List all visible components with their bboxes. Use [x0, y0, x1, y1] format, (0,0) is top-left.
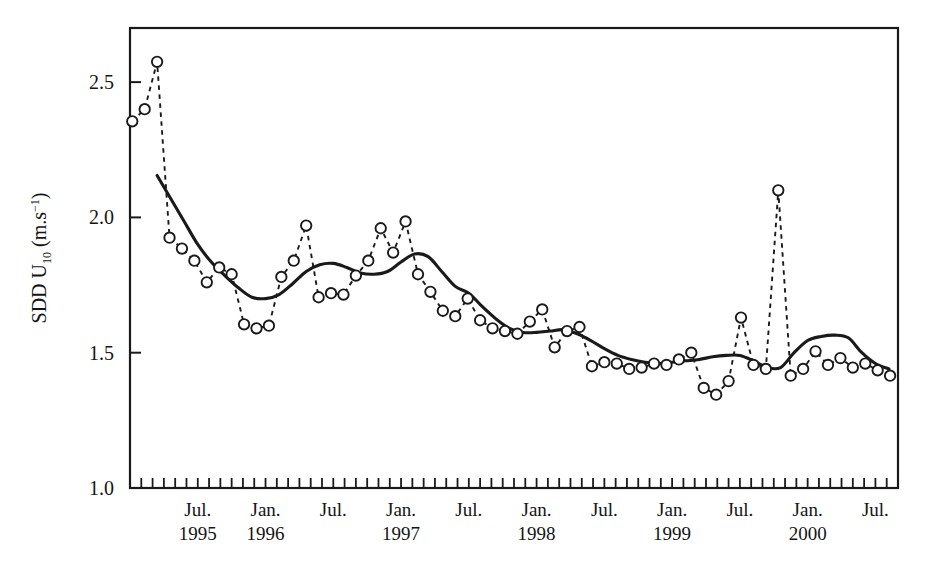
data-point-marker: [239, 319, 249, 329]
data-point-marker: [413, 269, 423, 279]
data-point-marker: [276, 272, 286, 282]
data-point-marker: [549, 342, 559, 352]
data-point-marker: [736, 312, 746, 322]
data-point-marker: [711, 389, 721, 399]
data-point-marker: [289, 256, 299, 266]
x-tick-label-month: Jul.: [862, 499, 889, 520]
x-tick-label-month: Jan.: [522, 499, 552, 520]
y-label-main-b: (m.s: [28, 212, 51, 252]
data-point-marker: [376, 223, 386, 233]
y-tick-label: 1.5: [89, 342, 114, 364]
x-tick-label-month: Jul.: [726, 499, 753, 520]
data-point-marker: [748, 360, 758, 370]
data-point-marker: [835, 353, 845, 363]
data-point-marker: [562, 326, 572, 336]
data-point-marker: [574, 322, 584, 332]
data-point-marker: [661, 360, 671, 370]
data-point-marker: [338, 289, 348, 299]
y-label-main-a: SDD U: [28, 263, 50, 323]
x-tick-label-month: Jul.: [320, 499, 347, 520]
data-point-marker: [587, 361, 597, 371]
x-tick-label-month: Jan.: [250, 499, 280, 520]
data-point-marker: [226, 269, 236, 279]
data-point-marker: [798, 364, 808, 374]
x-tick-label-month: Jan.: [386, 499, 416, 520]
data-point-marker: [127, 116, 137, 126]
data-point-marker: [152, 57, 162, 67]
data-point-marker: [810, 346, 820, 356]
data-point-marker: [860, 358, 870, 368]
data-point-marker: [612, 358, 622, 368]
data-point-marker: [351, 270, 361, 280]
data-point-marker: [214, 262, 224, 272]
data-point-marker: [500, 326, 510, 336]
x-tick-label-year: 2000: [789, 523, 827, 544]
y-tick-label: 1.0: [89, 477, 114, 499]
data-point-marker: [674, 354, 684, 364]
x-tick-label-month: Jul.: [591, 499, 618, 520]
data-point-marker: [512, 329, 522, 339]
data-point-marker: [177, 243, 187, 253]
data-point-marker: [462, 293, 472, 303]
data-point-marker: [686, 348, 696, 358]
y-label-main-c: ): [28, 193, 51, 200]
data-point-marker: [525, 316, 535, 326]
x-tick-label-year: 1999: [653, 523, 691, 544]
y-label-subscript: 10: [40, 252, 54, 264]
data-point-marker: [264, 320, 274, 330]
x-tick-label-year: 1995: [179, 523, 217, 544]
y-label-superscript: −1: [28, 199, 42, 212]
data-point-marker: [438, 306, 448, 316]
data-point-marker: [848, 362, 858, 372]
data-point-marker: [475, 315, 485, 325]
x-tick-label-year: 1998: [518, 523, 556, 544]
data-point-marker: [624, 364, 634, 374]
data-point-marker: [425, 287, 435, 297]
x-tick-label-year: 1996: [247, 523, 285, 544]
y-tick-label: 2.0: [89, 206, 114, 228]
sdd-u10-time-series-chart: 1.01.52.02.5 Jul.1995Jan.1996Jul.Jan.199…: [0, 0, 938, 576]
data-point-marker: [599, 357, 609, 367]
data-point-marker: [363, 256, 373, 266]
data-point-marker: [885, 371, 895, 381]
data-point-marker: [388, 247, 398, 257]
data-point-marker: [400, 216, 410, 226]
data-point-marker: [139, 104, 149, 114]
data-point-marker: [450, 311, 460, 321]
data-point-marker: [537, 304, 547, 314]
data-point-marker: [773, 185, 783, 195]
data-point-marker: [164, 233, 174, 243]
x-tick-label-month: Jan.: [793, 499, 823, 520]
data-point-marker: [202, 277, 212, 287]
data-point-marker: [823, 360, 833, 370]
data-point-marker: [313, 292, 323, 302]
data-point-marker: [636, 362, 646, 372]
y-tick-label: 2.5: [89, 71, 114, 93]
data-point-marker: [723, 376, 733, 386]
data-point-marker: [649, 358, 659, 368]
chart-background: [0, 0, 938, 576]
data-point-marker: [786, 371, 796, 381]
data-point-marker: [487, 323, 497, 333]
data-point-marker: [189, 256, 199, 266]
figure-container: 1.01.52.02.5 Jul.1995Jan.1996Jul.Jan.199…: [0, 0, 938, 576]
data-point-marker: [326, 288, 336, 298]
data-point-marker: [301, 220, 311, 230]
data-point-marker: [872, 365, 882, 375]
data-point-marker: [761, 364, 771, 374]
x-tick-label-month: Jan.: [657, 499, 687, 520]
x-tick-label-month: Jul.: [455, 499, 482, 520]
data-point-marker: [699, 383, 709, 393]
data-point-marker: [251, 323, 261, 333]
x-tick-label-year: 1997: [382, 523, 420, 544]
x-tick-label-month: Jul.: [184, 499, 211, 520]
